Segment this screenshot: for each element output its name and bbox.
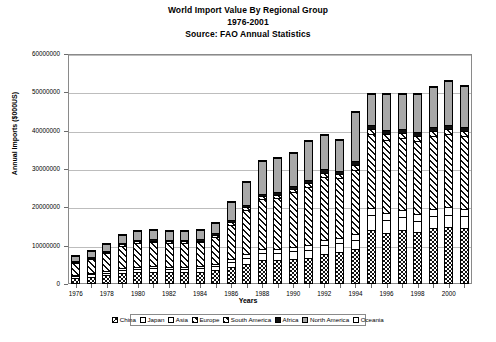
bar-segment <box>242 264 251 284</box>
x-axis-tick-label: 1994 <box>339 290 371 297</box>
legend-item: Africa <box>275 317 298 323</box>
bar-segment <box>351 112 360 161</box>
bar-stack <box>71 255 80 284</box>
bar-segment <box>460 209 469 216</box>
bar-segment <box>133 272 142 284</box>
legend-item: Oceania <box>353 317 384 323</box>
legend-label: Africa <box>283 317 299 323</box>
x-axis-tick-mark <box>76 284 77 288</box>
bar-segment <box>87 277 96 284</box>
bar-segment <box>413 141 422 214</box>
bar-stack <box>320 134 329 284</box>
x-axis-tick-mark <box>216 284 217 288</box>
y-axis-tick-label: 50000000 <box>32 89 60 95</box>
bar-segment <box>398 230 407 284</box>
bar-segment <box>351 240 360 249</box>
x-axis-tick-mark <box>387 284 388 288</box>
bar-segment <box>149 272 158 284</box>
bar-segment <box>304 258 313 284</box>
x-axis-tick-mark <box>200 284 201 288</box>
legend-swatch-icon <box>353 317 359 323</box>
bar-segment <box>460 228 469 284</box>
legend-label: China <box>120 317 136 323</box>
bar-segment <box>460 136 469 209</box>
legend-item: China <box>112 317 136 323</box>
bars-layer <box>68 54 472 284</box>
bar-segment <box>273 260 282 284</box>
bar-segment <box>102 275 111 284</box>
bar-stack <box>429 86 438 284</box>
bar-segment <box>196 272 205 284</box>
x-axis-tick-mark <box>262 284 263 288</box>
x-axis-tick-label: 1984 <box>184 290 216 297</box>
bar-segment <box>429 209 438 216</box>
legend-item: Europe <box>192 317 219 323</box>
bar-segment <box>335 178 344 238</box>
bar-segment <box>444 134 453 207</box>
bar-stack <box>258 160 267 284</box>
x-axis-tick-mark <box>340 284 341 288</box>
bar-segment <box>289 259 298 284</box>
legend-swatch-icon <box>112 317 118 323</box>
legend-label: Asia <box>176 317 188 323</box>
bar-stack <box>367 93 376 284</box>
bar-segment <box>304 187 313 245</box>
bar-segment <box>227 267 236 284</box>
bar-segment <box>165 272 174 284</box>
y-axis-tick-label: 30000000 <box>32 166 60 172</box>
bar-stack <box>351 111 360 284</box>
bar-segment <box>335 243 344 252</box>
bar-segment <box>444 81 453 125</box>
x-axis-tick-mark <box>107 284 108 288</box>
legend-swatch-icon <box>168 317 174 323</box>
bar-segment <box>273 253 282 260</box>
bar-segment <box>180 231 189 240</box>
bar-segment <box>180 272 189 284</box>
bar-stack <box>444 80 453 285</box>
bar-stack <box>149 229 158 284</box>
y-axis-tick-label: 60000000 <box>32 51 60 57</box>
bar-segment <box>320 254 329 284</box>
bar-segment <box>367 94 376 124</box>
bar-segment <box>149 230 158 239</box>
bar-segment <box>429 87 438 127</box>
legend-swatch-icon <box>302 317 308 323</box>
x-axis-tick-label: 1980 <box>122 290 154 297</box>
bar-segment <box>460 86 469 127</box>
legend-label: South America <box>231 317 271 323</box>
y-axis-tick-label: 40000000 <box>32 128 60 134</box>
bar-stack <box>211 222 220 284</box>
bar-segment <box>444 207 453 214</box>
x-axis-tick-mark <box>324 284 325 288</box>
x-axis-tick-label: 1978 <box>91 290 123 297</box>
x-axis-tick-mark <box>153 284 154 288</box>
x-axis-tick-mark <box>122 284 123 288</box>
x-axis-tick-mark <box>309 284 310 288</box>
bar-segment <box>227 225 236 260</box>
legend-item: Japan <box>140 317 164 323</box>
bar-stack <box>227 201 236 284</box>
bar-segment <box>367 215 376 229</box>
bar-segment <box>258 161 267 194</box>
legend-swatch-icon <box>223 317 229 323</box>
bar-segment <box>118 273 127 284</box>
x-axis: 1976197819801982198419861988199019921994… <box>68 284 472 308</box>
bar-segment <box>304 141 313 180</box>
x-axis-tick-label: 1992 <box>308 290 340 297</box>
x-axis-tick-mark <box>247 284 248 288</box>
bar-segment <box>211 270 220 284</box>
bar-segment <box>382 233 391 284</box>
bar-stack <box>413 93 422 284</box>
legend-label: North America <box>310 317 349 323</box>
bar-segment <box>367 208 376 215</box>
bar-segment <box>273 198 282 249</box>
bar-segment <box>460 216 469 228</box>
bar-segment <box>429 216 438 228</box>
bar-segment <box>242 210 251 254</box>
bar-stack <box>273 157 282 284</box>
bar-segment <box>335 140 344 170</box>
x-axis-tick-mark <box>91 284 92 288</box>
bar-segment <box>289 153 298 186</box>
x-axis-tick-mark <box>402 284 403 288</box>
bar-segment <box>382 220 391 233</box>
